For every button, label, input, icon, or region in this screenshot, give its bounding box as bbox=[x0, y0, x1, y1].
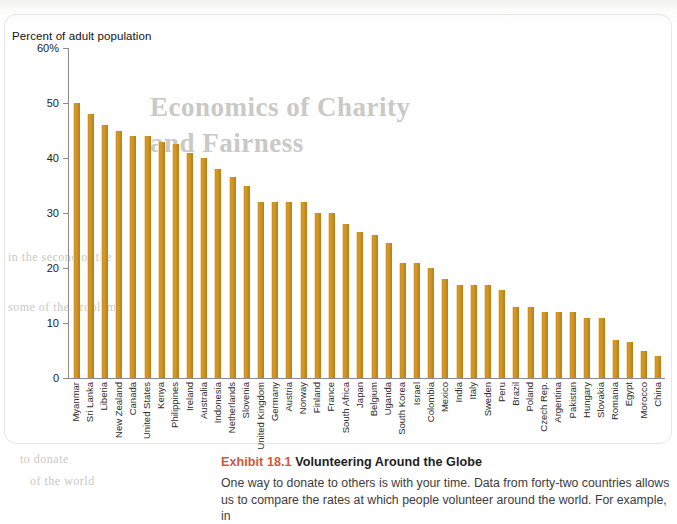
x-axis-label: Sweden bbox=[483, 382, 493, 416]
x-axis-label: South Africa bbox=[341, 382, 351, 433]
caption-body-line-2: us to compare the rates at which people … bbox=[221, 493, 667, 524]
x-axis-label: India bbox=[454, 382, 464, 403]
bar bbox=[115, 131, 122, 379]
x-axis-label: France bbox=[327, 382, 337, 412]
x-axis-label: Romania bbox=[610, 382, 620, 420]
x-axis-line bbox=[68, 378, 665, 379]
x-axis-label: Peru bbox=[497, 382, 507, 402]
bar bbox=[441, 279, 448, 378]
caption-title-line: Exhibit 18.1 Volunteering Around the Glo… bbox=[221, 455, 673, 469]
bar-column: Ireland bbox=[183, 48, 197, 378]
bar bbox=[158, 142, 165, 379]
x-axis-label: Austria bbox=[284, 382, 294, 412]
bar-column: Sri Lanka bbox=[83, 48, 97, 378]
bar bbox=[87, 114, 94, 378]
x-axis-label: Liberia bbox=[100, 382, 110, 411]
y-tick-label: 40 bbox=[47, 152, 59, 164]
x-axis-label: Uganda bbox=[383, 382, 393, 415]
bar bbox=[300, 202, 307, 378]
x-axis-label: South Korea bbox=[398, 382, 408, 435]
bar-column: Norway bbox=[296, 48, 310, 378]
bar bbox=[285, 202, 292, 378]
x-axis-label: Israel bbox=[412, 382, 422, 405]
y-tick-label: 30 bbox=[47, 207, 59, 219]
bar bbox=[541, 312, 548, 378]
bar-column: Philippines bbox=[168, 48, 182, 378]
x-axis-label: Netherlands bbox=[227, 382, 237, 433]
y-tick-label: 50 bbox=[47, 97, 59, 109]
bar-column: Italy bbox=[466, 48, 480, 378]
figure-caption: Exhibit 18.1 Volunteering Around the Glo… bbox=[221, 455, 673, 524]
x-axis-label: Egypt bbox=[625, 382, 635, 406]
bar bbox=[129, 136, 136, 378]
bar-column: Indonesia bbox=[211, 48, 225, 378]
bar-column: South Africa bbox=[339, 48, 353, 378]
x-axis-label: Argentina bbox=[554, 382, 564, 423]
y-tick-mark bbox=[63, 158, 68, 159]
bar bbox=[243, 186, 250, 379]
bar-column: Pakistan bbox=[566, 48, 580, 378]
x-axis-label: Colombia bbox=[426, 382, 436, 422]
bar bbox=[328, 213, 335, 378]
bar-chart: Percent of adult population 60%504030201… bbox=[0, 0, 677, 460]
bar bbox=[598, 318, 605, 379]
bar bbox=[356, 232, 363, 378]
bar-column: Japan bbox=[353, 48, 367, 378]
bar-column: New Zealand bbox=[112, 48, 126, 378]
bar-column: Slovakia bbox=[594, 48, 608, 378]
bar-column: Egypt bbox=[622, 48, 636, 378]
x-axis-label: Mexico bbox=[440, 382, 450, 412]
bar-column: Israel bbox=[410, 48, 424, 378]
caption-body: One way to donate to others is with your… bbox=[221, 475, 673, 524]
bar bbox=[569, 312, 576, 378]
bar-column: Peru bbox=[495, 48, 509, 378]
x-axis-label: Philippines bbox=[171, 382, 181, 428]
bar bbox=[640, 351, 647, 379]
bar bbox=[583, 318, 590, 379]
bar bbox=[456, 285, 463, 379]
y-tick-mark bbox=[63, 48, 68, 49]
y-tick-label: 20 bbox=[47, 262, 59, 274]
bar bbox=[555, 312, 562, 378]
x-axis-label: Belgium bbox=[369, 382, 379, 416]
caption-body-line-1: One way to donate to others is with your… bbox=[221, 476, 669, 490]
caption-title: Volunteering Around the Globe bbox=[295, 455, 482, 469]
bar-column: Colombia bbox=[424, 48, 438, 378]
plot-area: 60%50403020100 MyanmarSri LankaLiberiaNe… bbox=[68, 48, 665, 378]
bar-column: Brazil bbox=[509, 48, 523, 378]
bar-column: Czech Rep. bbox=[537, 48, 551, 378]
bar bbox=[257, 202, 264, 378]
y-tick-mark bbox=[63, 323, 68, 324]
x-axis-label: Slovakia bbox=[596, 382, 606, 418]
bar bbox=[413, 263, 420, 379]
exhibit-label: Exhibit 18.1 bbox=[221, 455, 292, 469]
bar bbox=[229, 177, 236, 378]
bar bbox=[342, 224, 349, 378]
bar-column: Germany bbox=[268, 48, 282, 378]
x-axis-label: New Zealand bbox=[114, 382, 124, 438]
bar-column: United Kingdom bbox=[253, 48, 267, 378]
bar-column: Morocco bbox=[637, 48, 651, 378]
bar-column: United States bbox=[140, 48, 154, 378]
bar-column: Austria bbox=[282, 48, 296, 378]
bar-column: Canada bbox=[126, 48, 140, 378]
bar-column: India bbox=[452, 48, 466, 378]
x-axis-label: Finland bbox=[313, 382, 323, 413]
bar bbox=[314, 213, 321, 378]
x-axis-label: Czech Rep. bbox=[540, 382, 550, 432]
x-axis-label: Canada bbox=[128, 382, 138, 415]
bar-column: Australia bbox=[197, 48, 211, 378]
bar bbox=[484, 285, 491, 379]
bar bbox=[73, 103, 80, 378]
x-axis-label: Japan bbox=[355, 382, 365, 408]
x-axis-label: Poland bbox=[525, 382, 535, 412]
bar-column: Mexico bbox=[438, 48, 452, 378]
bar-group: MyanmarSri LankaLiberiaNew ZealandCanada… bbox=[69, 48, 665, 378]
x-axis-label: Myanmar bbox=[71, 382, 81, 422]
bar bbox=[399, 263, 406, 379]
x-axis-label: United Kingdom bbox=[256, 382, 266, 450]
bar bbox=[144, 136, 151, 378]
bar bbox=[172, 144, 179, 378]
bar-column: Kenya bbox=[154, 48, 168, 378]
x-axis-label: China bbox=[653, 382, 663, 407]
